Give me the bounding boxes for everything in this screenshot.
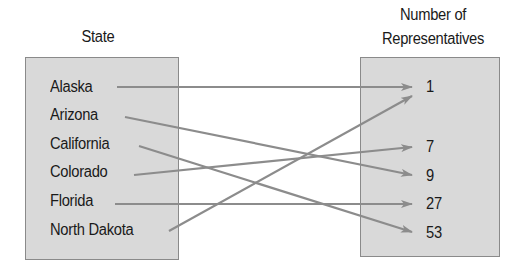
arrow-california-53 [139,146,412,232]
arrow-northdakota-1 [169,96,412,231]
arrow-colorado-7 [134,147,412,175]
mapping-arrows [0,0,520,275]
arrow-arizona-9 [125,117,412,175]
